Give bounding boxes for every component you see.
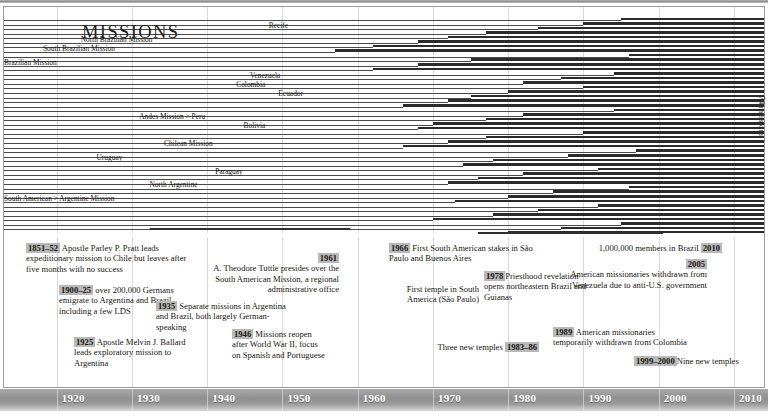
mission-span-bar	[418, 63, 764, 66]
axis-label-1970: 1970	[438, 392, 461, 404]
mission-span-bar	[621, 18, 764, 21]
mission-span-bar	[433, 122, 764, 125]
axis-label-1950: 1950	[287, 392, 310, 404]
mission-span-bar	[583, 86, 764, 89]
mission-span-bar	[629, 186, 764, 189]
mission-label-chilean-mission: Chilean Mission	[4, 139, 215, 148]
mission-span-bar	[463, 163, 764, 166]
mission-span-bar	[568, 154, 764, 157]
annotation-text: First South American stakes in São Paulo…	[389, 243, 533, 263]
annotation-year-badge: 1851–52	[26, 243, 60, 253]
mission-label-colombia: Colombia	[4, 80, 267, 89]
annotation-a1961: 1961A. Theodore Tuttle presides over the…	[204, 253, 339, 295]
annotation-divider-rule	[478, 232, 663, 234]
gridline-1960	[358, 237, 359, 387]
mission-span-bar	[523, 172, 764, 175]
year-axis: 1920193019401950196019701980199020002010	[0, 389, 768, 411]
mission-span-bar	[448, 99, 764, 102]
annotation-a1983: Three new temples 1983–86	[389, 342, 539, 352]
mission-span-bar	[493, 213, 764, 216]
annotation-a1946: 1946 Missions reopen after World War II,…	[232, 329, 327, 360]
axis-tick-1960	[358, 389, 359, 411]
annotation-a2005: 2005American missionaries withdrawn from…	[564, 259, 707, 290]
axis-tick-1950	[282, 389, 283, 411]
mission-span-bar	[583, 22, 764, 25]
annotation-text: 1,000,000 members in Brazil	[599, 243, 701, 253]
axis-label-2000: 2000	[664, 392, 687, 404]
mission-span-bar	[373, 45, 764, 48]
mission-span-bar	[448, 140, 764, 143]
axis-tick-2000	[659, 389, 660, 411]
annotation-a1935: 1935 Separate missions in Argentina and …	[156, 301, 286, 332]
annotation-year-badge: 1961	[318, 253, 339, 263]
axis-label-1990: 1990	[588, 392, 611, 404]
mission-span-bar	[561, 77, 764, 80]
mission-label-south-brazilian-mission: South Brazilian Mission	[4, 44, 117, 53]
mission-span-bar	[471, 58, 764, 61]
annotation-year-badge: 1900–25	[59, 285, 93, 295]
annotation-text: American missionaries withdrawn from Ven…	[570, 269, 707, 289]
mission-span-bar	[471, 95, 764, 98]
mission-span-bar	[614, 72, 764, 75]
axis-tick-1920	[57, 389, 58, 411]
mission-span-bar	[493, 159, 764, 162]
mission-span-bar	[486, 118, 764, 121]
annotation-panel: 1851–52 Apostle Parley P. Pratt leads ex…	[4, 237, 764, 387]
mission-label-ecuador: Ecuador	[4, 89, 305, 98]
axis-tick-2010	[734, 389, 735, 411]
page-top-rule	[0, 0, 768, 3]
annotation-year-badge: 1999–2000	[634, 356, 677, 366]
mission-span-bar	[621, 222, 764, 225]
mission-label-brazilian-mission: Brazilian Mission	[4, 58, 42, 67]
mission-span-bar	[629, 54, 764, 57]
timeline-figure: RecifeNorth Brazilian MissionSouth Brazi…	[0, 0, 768, 420]
annotation-atemple: First temple in South America (São Paulo…	[389, 284, 479, 305]
mission-span-bar	[486, 136, 764, 139]
mission-span-bar	[448, 181, 764, 184]
mission-count-label: 74 missions	[757, 96, 766, 137]
annotation-year-badge: 2005	[686, 259, 707, 269]
axis-label-1920: 1920	[62, 392, 85, 404]
mission-label-bolivia: Bolivia	[4, 121, 267, 130]
annotation-divider-rule	[150, 228, 350, 230]
axis-label-1980: 1980	[513, 392, 536, 404]
annotation-a1851: 1851–52 Apostle Parley P. Pratt leads ex…	[26, 243, 201, 274]
mission-span-bar	[636, 149, 764, 152]
mission-span-bar	[561, 227, 764, 230]
mission-label-venezuela: Venezuela	[4, 71, 282, 80]
axis-label-2010: 2010	[739, 392, 762, 404]
annotation-a1966: 1966 First South American stakes in São …	[389, 243, 554, 264]
chart-title: MISSIONS	[82, 22, 180, 43]
annotation-year-badge: 1966	[389, 243, 410, 253]
axis-label-1930: 1930	[137, 392, 160, 404]
annotation-year-badge: 2010	[701, 243, 722, 253]
mission-span-bar	[538, 209, 764, 212]
mission-span-bar	[455, 200, 764, 203]
mission-span-bar	[508, 195, 764, 198]
mission-span-bar	[433, 218, 764, 221]
mission-span-bar	[553, 190, 764, 193]
mission-span-bar	[614, 109, 764, 112]
mission-span-bar	[598, 204, 764, 207]
mission-span-bar	[403, 145, 764, 148]
mission-label-north-argentine: North Argentine	[4, 180, 200, 189]
annotation-text: A. Theodore Tuttle presides over the Sou…	[213, 263, 339, 294]
mission-span-bar	[486, 31, 764, 34]
annotation-year-badge: 1989	[553, 327, 574, 337]
mission-span-bar	[373, 68, 764, 71]
annotation-a1925: 1925 Apostle Melvin J. Ballard leads exp…	[74, 337, 196, 368]
axis-tick-1990	[583, 389, 584, 411]
mission-span-bar	[598, 168, 764, 171]
mission-span-bar	[418, 127, 764, 130]
mission-span-bar	[418, 40, 764, 43]
annotation-a1999: 1999–2000Nine new temples	[634, 356, 759, 366]
annotation-year-badge: 1983–86	[505, 342, 539, 352]
annotation-year-badge: 1935	[156, 301, 177, 311]
axis-label-1960: 1960	[363, 392, 386, 404]
annotation-year-badge: 1925	[74, 337, 95, 347]
annotation-a2010: 1,000,000 members in Brazil 2010	[552, 243, 722, 253]
annotation-year-badge: 1946	[232, 329, 253, 339]
axis-tick-1970	[433, 389, 434, 411]
axis-tick-1930	[132, 389, 133, 411]
annotation-text: Three new temples	[437, 342, 505, 352]
